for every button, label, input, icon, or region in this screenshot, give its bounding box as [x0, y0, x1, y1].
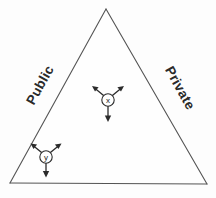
private-label-group: Private [162, 64, 198, 113]
private-label: Private [162, 64, 198, 113]
public-label: Public [23, 63, 57, 107]
diagram-canvas: Public Private x [0, 0, 216, 198]
triangle-diagram-svg: Public Private x [0, 0, 216, 198]
public-label-group: Public [23, 63, 57, 107]
node-x-label: x [106, 96, 110, 105]
node-y-label: y [44, 153, 48, 162]
